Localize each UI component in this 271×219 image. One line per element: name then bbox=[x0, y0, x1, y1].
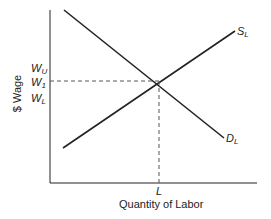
y-axis-title: $ Wage bbox=[12, 69, 23, 119]
label-d-l: DL bbox=[226, 133, 238, 146]
x-axis-title: Quantity of Labor bbox=[119, 199, 203, 210]
supply-curve bbox=[63, 31, 235, 148]
tick-l: L bbox=[156, 186, 162, 197]
tick-w-l: WL bbox=[31, 93, 46, 106]
labor-market-diagram bbox=[0, 0, 271, 219]
tick-w-1: W1 bbox=[31, 77, 46, 90]
demand-curve bbox=[64, 10, 224, 138]
tick-w-u: WU bbox=[31, 63, 47, 76]
label-s-l: SL bbox=[237, 26, 249, 39]
